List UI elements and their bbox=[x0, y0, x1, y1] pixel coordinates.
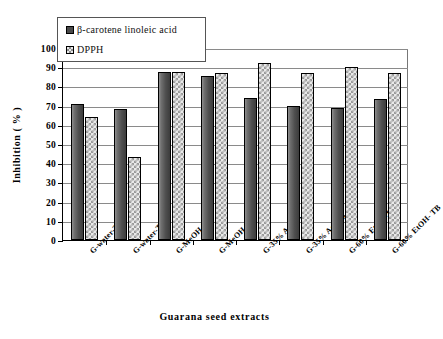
legend-label: DPPH bbox=[77, 44, 104, 55]
y-axis-tick-label: 80 bbox=[46, 82, 56, 92]
y-axis-tick bbox=[58, 107, 63, 108]
bar-dpph bbox=[85, 117, 98, 240]
bar-dpph bbox=[345, 67, 358, 240]
y-axis-title: Inhibition ( % ) bbox=[11, 107, 22, 184]
x-axis-tick bbox=[150, 240, 151, 245]
legend-label: β-carotene linoleic acid bbox=[77, 24, 177, 35]
legend-item-beta-carotene: β-carotene linoleic acid bbox=[66, 24, 177, 35]
bar-dpph bbox=[172, 72, 185, 240]
y-axis-tick-label: 30 bbox=[46, 178, 56, 188]
y-axis-tick-label: 20 bbox=[46, 197, 56, 207]
bar-beta-carotene bbox=[158, 72, 171, 240]
x-axis-tick bbox=[366, 240, 367, 245]
y-axis-tick-label: 10 bbox=[46, 217, 56, 227]
bar-beta-carotene bbox=[201, 76, 214, 240]
y-axis-tick-label: 60 bbox=[46, 121, 56, 131]
y-axis-tick-label: 70 bbox=[46, 101, 56, 111]
y-axis-tick bbox=[58, 183, 63, 184]
y-axis-tick bbox=[58, 164, 63, 165]
legend-item-dpph: DPPH bbox=[66, 44, 104, 55]
x-axis-tick bbox=[193, 240, 194, 245]
y-axis-tick bbox=[58, 241, 63, 242]
y-axis-tick-label: 100 bbox=[41, 44, 56, 54]
y-axis-tick-label: 40 bbox=[46, 159, 56, 169]
plot-area: 0102030405060708090100G-water-TRG-water-… bbox=[62, 49, 408, 241]
y-axis-tick bbox=[58, 203, 63, 204]
legend-swatch-icon bbox=[66, 46, 74, 54]
x-axis-tick bbox=[106, 240, 107, 245]
bar-dpph bbox=[128, 157, 141, 240]
y-axis-tick-label: 90 bbox=[46, 63, 56, 73]
x-axis-title: Guarana seed extracts bbox=[0, 311, 429, 322]
bar-beta-carotene bbox=[244, 98, 257, 240]
y-axis-tick bbox=[58, 126, 63, 127]
bar-beta-carotene bbox=[331, 108, 344, 240]
y-axis-tick bbox=[58, 222, 63, 223]
y-axis-tick bbox=[58, 68, 63, 69]
bar-dpph bbox=[215, 73, 228, 240]
bar-beta-carotene bbox=[71, 104, 84, 240]
bar-beta-carotene bbox=[374, 99, 387, 240]
legend-swatch-icon bbox=[66, 26, 74, 34]
bar-beta-carotene bbox=[287, 106, 300, 240]
bar-dpph bbox=[301, 73, 314, 240]
y-axis-tick-label: 50 bbox=[46, 140, 56, 150]
x-axis-tick bbox=[279, 240, 280, 245]
y-axis-tick-label: 0 bbox=[51, 236, 56, 246]
bar-beta-carotene bbox=[114, 109, 127, 240]
bar-dpph bbox=[258, 63, 271, 240]
chart-legend: β-carotene linoleic acid DPPH bbox=[57, 17, 206, 62]
x-axis-tick bbox=[323, 240, 324, 245]
x-axis-tick bbox=[236, 240, 237, 245]
bar-dpph bbox=[388, 73, 401, 240]
y-axis-tick bbox=[58, 87, 63, 88]
y-axis-tick bbox=[58, 145, 63, 146]
